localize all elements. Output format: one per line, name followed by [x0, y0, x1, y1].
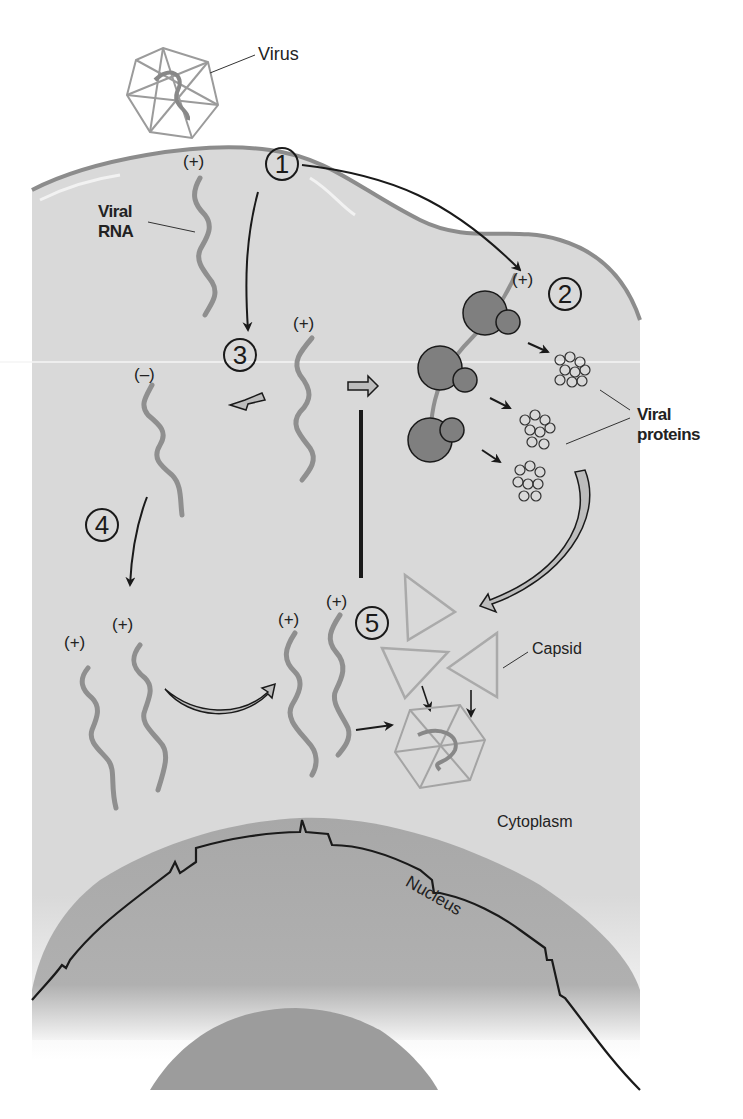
- viral-replication-diagram: [0, 0, 743, 1119]
- step-marker-1: 1: [265, 147, 299, 181]
- step-marker-2: 2: [548, 277, 582, 311]
- virus-particle: [127, 48, 218, 138]
- strand-sign-plus: (+): [293, 314, 314, 334]
- strand-sign-plus: (+): [112, 615, 133, 635]
- strand-sign-plus: (+): [512, 270, 533, 290]
- strand-sign-plus: (+): [326, 592, 347, 612]
- step-marker-3: 3: [223, 338, 257, 372]
- strand-sign-minus: (–): [134, 365, 155, 385]
- strand-sign-plus: (+): [278, 610, 299, 630]
- label-capsid: Capsid: [532, 640, 582, 658]
- label-viral-rna-line1: Viral: [98, 202, 132, 222]
- label-viral-proteins-line2: proteins: [637, 425, 700, 445]
- label-viral-proteins-line1: Viral: [637, 405, 671, 425]
- step-marker-4: 4: [85, 508, 119, 542]
- strand-sign-plus: (+): [64, 633, 85, 653]
- label-virus: Virus: [258, 44, 299, 65]
- step-marker-5: 5: [355, 606, 389, 640]
- label-cytoplasm: Cytoplasm: [497, 813, 573, 831]
- label-viral-rna-line2: RNA: [98, 222, 133, 242]
- strand-sign-plus: (+): [183, 152, 204, 172]
